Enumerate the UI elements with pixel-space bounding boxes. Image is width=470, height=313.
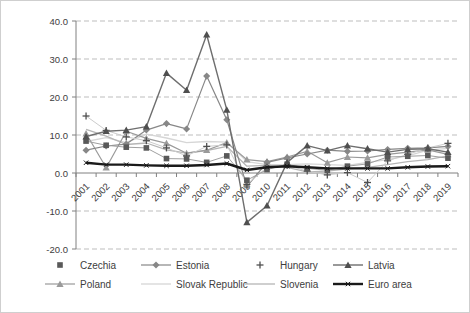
- square-marker: [224, 153, 230, 159]
- x-tick-label: 2017: [390, 181, 413, 204]
- x-tick-label: 2016: [370, 181, 393, 204]
- y-tick-label: 30.0: [50, 54, 69, 65]
- square-marker: [144, 145, 150, 151]
- legend-item-latvia: Latvia: [333, 259, 453, 271]
- square-marker: [123, 144, 129, 150]
- legend-item-euro-area: Euro area: [333, 278, 453, 290]
- square-marker: [244, 177, 250, 183]
- x-tick-label: 2003: [109, 181, 132, 204]
- square-marker: [164, 156, 170, 162]
- legend-label: Slovak Republic: [176, 279, 248, 290]
- x-tick-label: 2008: [209, 181, 232, 204]
- legend-swatch-estonia: [141, 259, 171, 271]
- square-marker: [57, 262, 63, 268]
- chart-container: 40.030.020.010.00.0-10.0-20.020012002200…: [0, 0, 470, 313]
- legend-label: Hungary: [280, 260, 318, 271]
- diamond-marker: [203, 73, 210, 80]
- legend-swatch-czechia: [45, 259, 75, 271]
- legend-label: Latvia: [368, 260, 395, 271]
- x-tick-label: 2018: [411, 181, 434, 204]
- x-tick-label: 2015: [350, 181, 373, 204]
- legend-swatch-slovak-republic: [141, 278, 171, 290]
- series-hungary: [83, 113, 452, 188]
- x-tick-label: 2006: [169, 181, 192, 204]
- square-marker: [365, 161, 371, 167]
- diamond-marker: [163, 120, 170, 127]
- legend-label: Slovenia: [280, 279, 318, 290]
- square-marker: [385, 154, 391, 160]
- x-tick-label: 2012: [290, 181, 313, 204]
- legend-swatch-latvia: [333, 259, 363, 271]
- y-tick-label: 40.0: [50, 16, 69, 27]
- y-tick-label: -10.0: [46, 206, 68, 217]
- square-marker: [445, 155, 451, 161]
- legend-item-slovak-republic: Slovak Republic: [141, 278, 245, 290]
- legend-label: Poland: [80, 279, 111, 290]
- x-tick-label: 2019: [431, 181, 454, 204]
- diamond-marker: [152, 261, 159, 268]
- x-tick-label: 2013: [310, 181, 333, 204]
- legend-label: Euro area: [368, 279, 412, 290]
- legend-swatch-poland: [45, 278, 75, 290]
- legend-swatch-hungary: [245, 259, 275, 271]
- triangle-marker: [203, 31, 210, 38]
- y-tick-label: 20.0: [50, 92, 69, 103]
- diamond-marker: [344, 148, 351, 155]
- y-axis-labels: 40.030.020.010.00.0-10.0-20.0: [46, 16, 68, 255]
- gridlines: [76, 21, 458, 249]
- square-marker: [184, 156, 190, 162]
- x-tick-label: 2007: [189, 181, 212, 204]
- legend-item-czechia: Czechia: [45, 259, 141, 271]
- triangle-marker: [263, 202, 270, 209]
- y-tick-label: 0.0: [55, 168, 68, 179]
- legend-swatch-slovenia: [245, 278, 275, 290]
- legend-swatch-euro-area: [333, 278, 363, 290]
- triangle-marker: [163, 69, 170, 76]
- legend-item-hungary: Hungary: [245, 259, 333, 271]
- chart-svg: 40.030.020.010.00.0-10.0-20.020012002200…: [1, 1, 470, 259]
- x-tick-label: 2014: [330, 181, 353, 204]
- triangle-marker: [223, 106, 230, 113]
- legend-label: Czechia: [80, 260, 116, 271]
- triangle-marker: [143, 123, 150, 129]
- series-line: [86, 116, 448, 184]
- x-axis-labels: 2001200220032004200520062007200820092010…: [69, 181, 454, 204]
- y-tick-label: -20.0: [46, 244, 68, 255]
- square-marker: [405, 153, 411, 159]
- chart-legend: CzechiaEstoniaHungaryLatviaPolandSlovak …: [45, 259, 453, 290]
- y-tick-label: 10.0: [50, 130, 69, 141]
- legend-label: Estonia: [176, 260, 209, 271]
- legend-item-poland: Poland: [45, 278, 141, 290]
- x-tick-label: 2004: [129, 181, 152, 204]
- x-tick-label: 2001: [69, 181, 92, 204]
- diamond-marker: [83, 147, 90, 154]
- square-marker: [103, 142, 109, 148]
- x-tick-label: 2002: [89, 181, 112, 204]
- triangle-marker: [304, 142, 311, 149]
- x-tick-label: 2005: [149, 181, 172, 204]
- diamond-marker: [183, 125, 190, 132]
- legend-item-slovenia: Slovenia: [245, 278, 333, 290]
- square-marker: [425, 153, 431, 159]
- legend-item-estonia: Estonia: [141, 259, 245, 271]
